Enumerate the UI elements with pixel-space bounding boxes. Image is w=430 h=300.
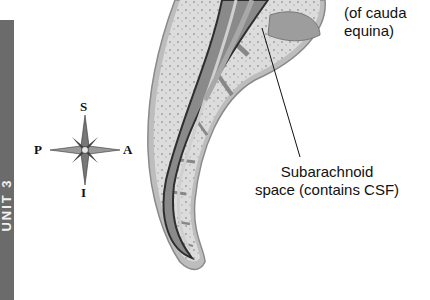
cauda-equina-label: (of cauda equina) — [344, 4, 407, 40]
vertebral-segment — [180, 160, 195, 162]
compass-anterior: A — [123, 142, 132, 158]
compass-superior: S — [80, 99, 87, 115]
compass-posterior: P — [34, 142, 42, 158]
subarachnoid-label: Subarachnoid space (contains CSF) — [232, 163, 422, 199]
compass-inferior: I — [81, 185, 86, 201]
compass-rose: S I P A — [30, 95, 140, 205]
